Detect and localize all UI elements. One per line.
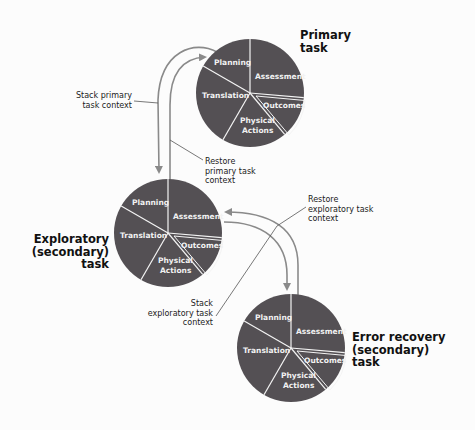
svg-text:Translation: Translation xyxy=(202,91,249,100)
stack-exploratory-note: Stack exploratory task context xyxy=(130,299,213,328)
svg-text:Actions: Actions xyxy=(283,381,315,390)
stack-exploratory-arrow xyxy=(224,222,287,289)
svg-text:Outcomes: Outcomes xyxy=(304,356,347,365)
restore-primary-note: Restore primary task context xyxy=(205,157,256,186)
svg-text:Planning: Planning xyxy=(132,198,169,207)
svg-text:Physical: Physical xyxy=(281,371,316,380)
svg-text:Translation: Translation xyxy=(243,346,290,355)
primary-task-title: Primary task xyxy=(300,29,351,54)
svg-text:Actions: Actions xyxy=(242,126,274,135)
exploratory-task-title: Exploratory (secondary) task xyxy=(20,233,109,271)
svg-text:Physical: Physical xyxy=(158,256,193,265)
svg-text:Planning: Planning xyxy=(255,313,292,322)
svg-text:Outcomes: Outcomes xyxy=(181,241,224,250)
svg-text:Actions: Actions xyxy=(160,266,192,275)
svg-text:Translation: Translation xyxy=(120,231,167,240)
error-recovery-task-pie: Planning Assessment Outcomes Physical Ac… xyxy=(237,294,347,402)
restore-exploratory-note: Restore exploratory task context xyxy=(308,195,373,224)
svg-text:Outcomes: Outcomes xyxy=(263,101,306,110)
svg-text:Assessment: Assessment xyxy=(296,327,347,336)
svg-text:Physical: Physical xyxy=(240,116,275,125)
svg-text:Assessment: Assessment xyxy=(173,212,224,221)
stack-primary-note: Stack primary task context xyxy=(40,91,132,110)
exploratory-task-pie: Planning Assessment Outcomes Physical Ac… xyxy=(114,179,224,287)
primary-task-pie: Planning Assessment Outcomes Physical Ac… xyxy=(196,39,306,147)
svg-text:Assessment: Assessment xyxy=(255,72,306,81)
task-context-diagram: Planning Assessment Outcomes Physical Ac… xyxy=(0,0,475,430)
error-recovery-task-title: Error recovery (secondary) task xyxy=(352,331,445,369)
svg-text:Planning: Planning xyxy=(214,58,251,67)
